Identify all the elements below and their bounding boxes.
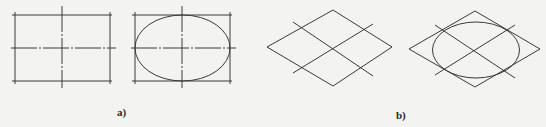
rhombus-with-centerlines xyxy=(267,10,392,86)
panel-b-label: b) xyxy=(396,109,406,121)
rectangle-with-centerlines xyxy=(11,6,116,88)
diagram-canvas xyxy=(0,0,546,127)
panel-a-label: a) xyxy=(117,106,126,118)
rhombus-with-ellipse xyxy=(409,11,540,87)
rectangle-with-ellipse xyxy=(131,6,236,88)
figure: a) b) xyxy=(0,0,546,127)
